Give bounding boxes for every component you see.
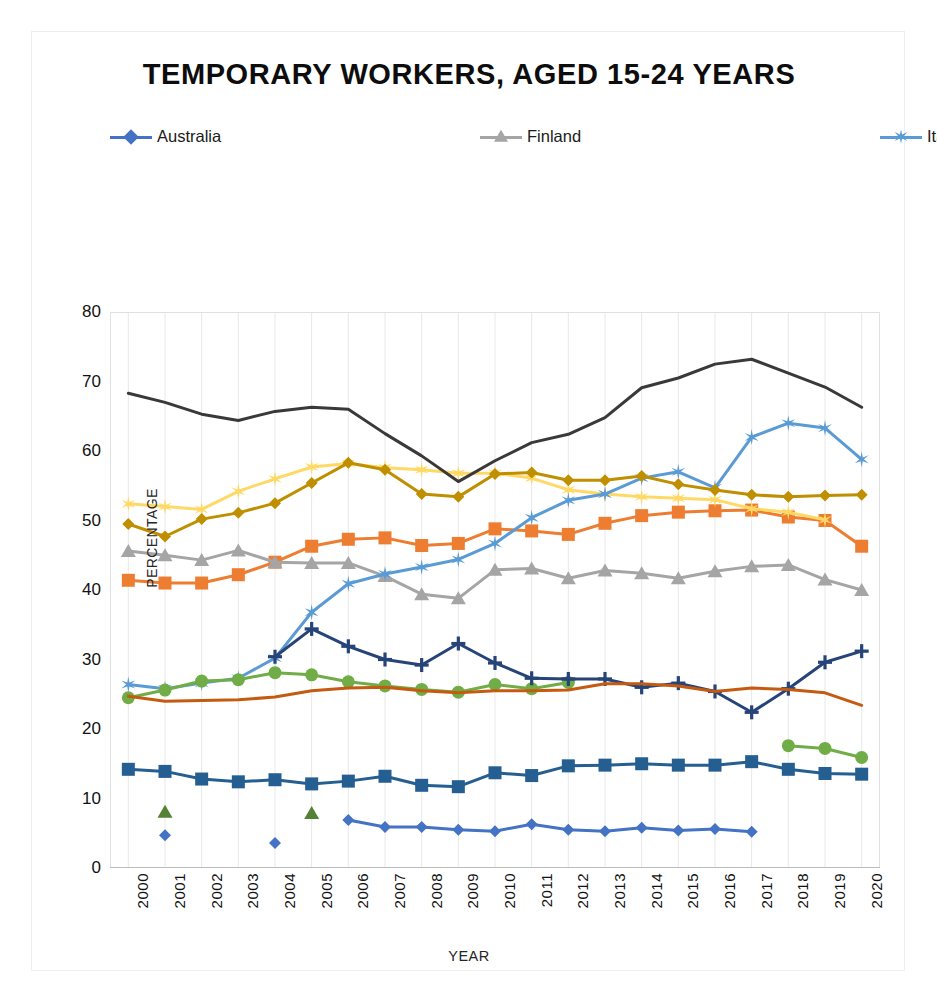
data-point-square — [195, 577, 208, 590]
data-point-diamond — [452, 824, 464, 836]
data-point-square — [525, 769, 538, 782]
data-point-diamond — [709, 823, 721, 835]
data-point-square — [672, 759, 685, 772]
x-tick-label: 2007 — [391, 873, 408, 908]
y-axis-title: PERCENTAGE — [144, 458, 160, 618]
chart-legend: AustraliaFinlandItalyKoreaSpainUnited Ki… — [110, 122, 880, 151]
data-point-square — [855, 540, 868, 553]
data-point-square — [562, 528, 575, 541]
data-point-circle — [305, 668, 318, 681]
legend-marker-diamond-icon — [123, 129, 139, 145]
y-tick-label: 40 — [82, 580, 101, 600]
data-point-square — [599, 517, 612, 530]
data-point-plus — [451, 637, 465, 651]
data-point-diamond — [819, 489, 831, 501]
legend-item-australia[interactable]: Australia — [110, 122, 480, 151]
data-point-square — [489, 522, 502, 535]
data-point-diamond — [562, 474, 574, 486]
x-tick-label: 2006 — [354, 873, 371, 908]
legend-marker-triangle-icon — [494, 129, 508, 141]
data-point-diamond — [269, 497, 281, 509]
data-point-diamond — [782, 491, 794, 503]
data-point-circle — [782, 739, 795, 752]
data-point-diamond — [746, 826, 758, 838]
data-point-plus — [525, 671, 539, 685]
data-point-square — [305, 540, 318, 553]
data-point-square — [415, 779, 428, 792]
x-tick-label: 2000 — [134, 873, 151, 908]
data-point-diamond — [269, 837, 281, 849]
data-point-diamond — [672, 824, 684, 836]
data-point-diamond — [599, 825, 611, 837]
data-point-square — [819, 767, 832, 780]
legend-item-label: Finland — [527, 127, 581, 146]
data-point-square — [342, 533, 355, 546]
data-point-triangle — [231, 543, 246, 556]
data-point-plus — [378, 653, 392, 667]
data-point-circle — [489, 678, 502, 691]
data-point-square — [709, 759, 722, 772]
x-tick-label: 2010 — [501, 873, 518, 908]
data-point-square — [159, 577, 172, 590]
data-point-diamond — [416, 821, 428, 833]
data-point-square — [122, 763, 135, 776]
data-point-diamond — [562, 824, 574, 836]
legend-item-finland[interactable]: Finland — [480, 122, 880, 151]
legend-item-italy[interactable]: Italy — [880, 122, 937, 151]
data-point-square — [305, 777, 318, 790]
data-point-square — [672, 506, 685, 519]
data-point-plus — [415, 658, 429, 672]
chart-card: TEMPORARY WORKERS, AGED 15-24 YEARS Aust… — [31, 31, 905, 971]
x-tick-label: 2008 — [428, 873, 445, 908]
data-point-plus — [855, 644, 869, 658]
x-tick-label: 2001 — [171, 873, 188, 908]
data-point-square — [635, 757, 648, 770]
data-point-square — [379, 770, 392, 783]
data-point-star — [525, 510, 539, 526]
data-point-triangle — [304, 806, 319, 819]
data-point-diamond — [122, 518, 134, 530]
x-tick-label: 2003 — [244, 873, 261, 908]
data-point-square — [379, 531, 392, 544]
data-point-diamond — [159, 530, 171, 542]
data-point-square — [782, 763, 795, 776]
legend-item-label: Australia — [157, 127, 221, 146]
data-point-square — [122, 574, 135, 587]
x-tick-label: 2020 — [868, 873, 885, 908]
page-title: TEMPORARY WORKERS, AGED 15-24 YEARS — [32, 56, 906, 92]
data-point-square — [232, 775, 245, 788]
data-point-square — [745, 755, 758, 768]
x-axis-title: YEAR — [32, 948, 906, 964]
data-point-square — [635, 509, 648, 522]
x-axis-tick-labels: 2000200120022003200420052006200720082009… — [110, 873, 880, 943]
series-line — [348, 820, 751, 832]
data-point-diamond — [599, 474, 611, 486]
data-point-diamond — [672, 478, 684, 490]
data-point-triangle — [158, 805, 173, 818]
data-point-diamond — [856, 489, 868, 501]
x-tick-label: 2013 — [611, 873, 628, 908]
y-tick-label: 60 — [82, 441, 101, 461]
data-point-diamond — [342, 814, 354, 826]
x-tick-label: 2015 — [684, 873, 701, 908]
y-tick-label: 30 — [82, 650, 101, 670]
data-point-diamond — [746, 489, 758, 501]
legend-item-label: Italy — [927, 127, 937, 146]
plot-area: PERCENTAGE 80706050403020100 — [110, 312, 880, 868]
data-point-diamond — [159, 829, 171, 841]
data-point-diamond — [379, 821, 391, 833]
x-tick-label: 2014 — [648, 873, 665, 908]
y-tick-label: 20 — [82, 719, 101, 739]
data-point-square — [159, 765, 172, 778]
data-point-circle — [269, 666, 282, 679]
x-tick-label: 2018 — [794, 873, 811, 908]
data-point-diamond — [636, 822, 648, 834]
data-point-circle — [159, 684, 172, 697]
data-point-square — [855, 768, 868, 781]
data-point-square — [269, 773, 282, 786]
data-point-plus — [341, 639, 355, 653]
data-point-square — [232, 568, 245, 581]
y-tick-label: 0 — [92, 858, 101, 878]
x-tick-label: 2009 — [464, 873, 481, 908]
data-point-square — [195, 773, 208, 786]
